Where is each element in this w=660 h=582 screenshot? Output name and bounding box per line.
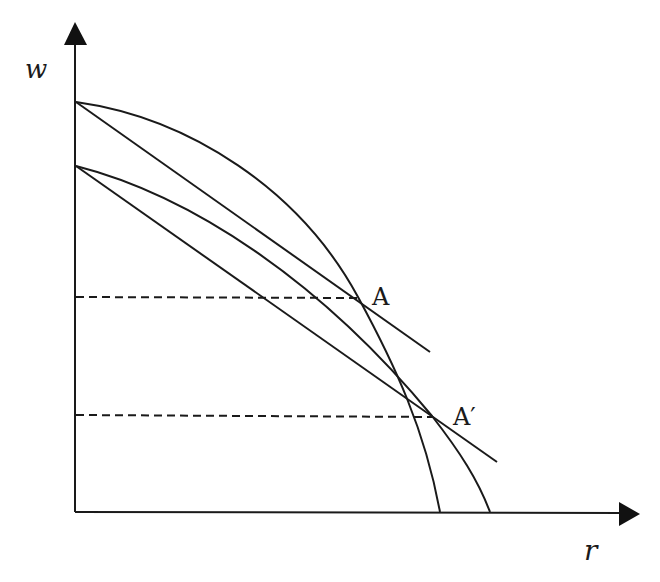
dashed-guide-A-prime (76, 415, 432, 417)
x-axis-label: r (584, 534, 599, 567)
x-axis (75, 512, 622, 513)
x-axis-arrow-icon (619, 502, 640, 526)
y-axis-label: w (25, 54, 47, 84)
dashed-guide-A (76, 297, 358, 298)
diagram-canvas: w r A A′ (0, 0, 660, 582)
axes (75, 40, 622, 513)
upper-tangent-line (76, 102, 430, 352)
lower-tangent-line (76, 166, 497, 462)
point-A-prime-label: A′ (452, 403, 476, 431)
y-axis-arrow-icon (64, 22, 87, 45)
point-A-label: A (371, 283, 390, 311)
